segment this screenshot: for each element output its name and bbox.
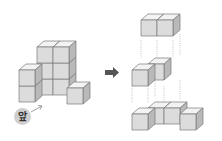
middle-layer [132, 58, 171, 86]
bottom-layer [132, 102, 203, 130]
direction-arrow-icon [30, 104, 44, 114]
original-structure [19, 41, 90, 104]
block-diagram [0, 0, 222, 141]
exploded-layers [132, 14, 203, 130]
front-label: 앞 [14, 108, 31, 125]
right-arrow-icon [105, 67, 119, 78]
top-layer [141, 14, 180, 36]
